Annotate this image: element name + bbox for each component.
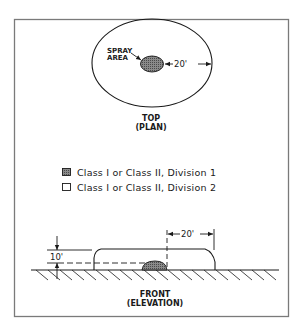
hazardous-area-diagram: SPRAY AREA 20' TOP (PLAN) Class I or Cla…: [0, 0, 302, 325]
legend: Class I or Class II, Division 1 Class I …: [63, 167, 217, 193]
spray-area-mound-division-1: [142, 261, 167, 270]
legend-swatch-empty: [63, 184, 71, 191]
plan-caption-line2: (PLAN): [135, 123, 166, 132]
spray-area-leader-arrow: [131, 53, 141, 60]
legend-label-division-1: Class I or Class II, Division 1: [77, 167, 216, 178]
elevation-distance-label: 20': [181, 229, 194, 239]
ground-hatching: [36, 270, 276, 280]
legend-item-division-2: Class I or Class II, Division 2: [63, 182, 217, 193]
legend-item-division-1: Class I or Class II, Division 1: [63, 167, 217, 178]
elevation-caption-line2: (ELEVATION): [127, 299, 184, 308]
plan-caption-line1: TOP: [142, 114, 160, 123]
front-elevation-view: 10' 20' FRONT (ELEVATION): [31, 229, 279, 308]
plan-distance-label: 20': [174, 59, 187, 69]
spray-area-division-1: [141, 56, 164, 72]
spray-area-label-line2: AREA: [107, 54, 129, 62]
top-plan-view: SPRAY AREA 20' TOP (PLAN): [92, 19, 212, 132]
legend-label-division-2: Class I or Class II, Division 2: [77, 182, 216, 193]
legend-swatch-shaded: [63, 169, 71, 176]
elevation-caption-line1: FRONT: [140, 290, 171, 299]
height-label: 10': [50, 252, 63, 262]
